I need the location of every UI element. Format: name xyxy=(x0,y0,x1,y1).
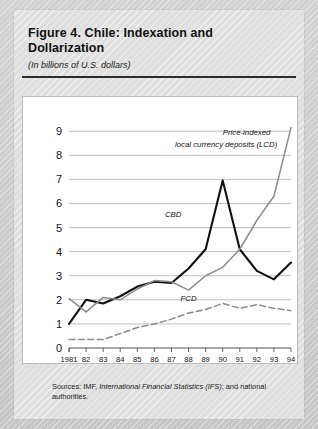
x-tick-label: 83 xyxy=(99,355,107,363)
annotation-label: local currency deposits (LCD) xyxy=(175,140,278,149)
x-tick-label: 91 xyxy=(236,355,244,363)
figure-title: Figure 4. Chile: Indexation and Dollariz… xyxy=(28,26,290,56)
y-tick-label: 6 xyxy=(56,197,62,209)
y-tick-label: 0 xyxy=(56,342,62,354)
x-tick-label: 92 xyxy=(253,355,261,363)
figure-card: Figure 4. Chile: Indexation and Dollariz… xyxy=(14,10,304,419)
x-tick-label: 85 xyxy=(133,355,141,363)
y-tick-label: 4 xyxy=(56,246,62,258)
annotation-label: FCD xyxy=(181,294,197,303)
sources-publication: International Financial Statistics (IFS) xyxy=(99,382,221,391)
title-divider xyxy=(22,76,296,78)
y-axis-tick-labels: 0123456789 xyxy=(56,125,62,354)
x-tick-label: 87 xyxy=(167,355,175,363)
y-tick-label: 1 xyxy=(56,318,62,330)
x-tick-label: 89 xyxy=(201,355,209,363)
figure-subtitle: (In billions of U.S. dollars) xyxy=(28,60,290,70)
y-tick-label: 5 xyxy=(56,222,62,234)
x-tick-label: 82 xyxy=(82,355,90,363)
y-tick-label: 8 xyxy=(56,149,62,161)
annotation-label: CBD xyxy=(165,210,182,219)
y-tick-label: 2 xyxy=(56,294,62,306)
chart-panel: 0123456789 19818283848586878889909192939… xyxy=(22,96,298,364)
sources-prefix: Sources: IMF, xyxy=(52,382,99,391)
x-axis xyxy=(69,348,291,352)
x-tick-label: 88 xyxy=(184,355,192,363)
x-axis-tick-labels: 198182838485868788899091929394 xyxy=(61,355,296,363)
data-series-group xyxy=(69,128,291,340)
x-tick-label: 84 xyxy=(116,355,124,363)
annotation-label: Price-indexed xyxy=(223,128,271,137)
sources-note: Sources: IMF, International Financial St… xyxy=(52,382,290,401)
x-tick-label: 93 xyxy=(270,355,278,363)
y-tick-label: 7 xyxy=(56,173,62,185)
x-tick-label: 86 xyxy=(150,355,158,363)
y-tick-label: 3 xyxy=(56,270,62,282)
y-tick-label: 9 xyxy=(56,125,62,137)
series-line-fcd xyxy=(69,303,291,339)
x-tick-label: 90 xyxy=(218,355,226,363)
x-tick-label: 1981 xyxy=(61,355,78,363)
x-tick-label: 94 xyxy=(287,355,295,363)
line-chart: 0123456789 19818283848586878889909192939… xyxy=(23,97,297,363)
